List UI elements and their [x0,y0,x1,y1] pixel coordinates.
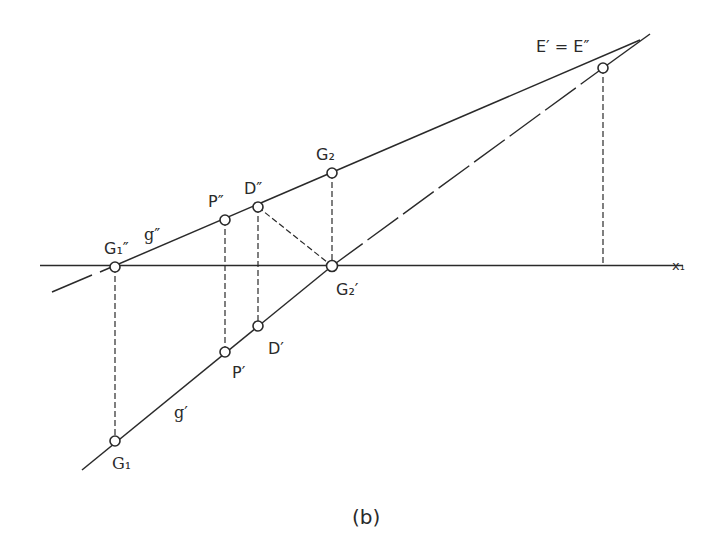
label-D-double-prime: D″ [244,179,262,198]
label-P-prime: P′ [232,363,246,382]
label-G2-prime: G₂′ [336,280,359,299]
label-G1-double-prime: G₁″ [104,239,129,258]
label-P-double-prime: P″ [208,192,224,211]
line-g-double-prime-extension [52,275,92,292]
label-x1-axis: x₁ [672,258,685,273]
descriptive-geometry-diagram: E′ = E″ G₂ D″ P″ g″ G₁″ G₂′ D′ P′ g′ G₁ … [0,0,718,545]
line-g-prime-extension [332,68,603,266]
point-G1-double-prime [110,262,120,272]
label-G1: G₁ [112,454,131,473]
label-g-prime: g′ [174,403,188,422]
point-G2 [327,168,337,178]
point-G2-prime [327,261,338,272]
point-E [598,63,608,73]
point-P-double-prime [220,215,230,225]
point-D-prime [253,321,263,331]
label-E: E′ = E″ [536,37,589,56]
label-g-double-prime: g″ [144,225,160,244]
point-D-double-prime [253,202,263,212]
label-D-prime: D′ [268,339,284,358]
line-g-double-prime [100,40,640,272]
label-G2: G₂ [316,145,335,164]
figure-caption: (b) [352,505,380,529]
point-G1 [110,436,120,446]
point-P-prime [220,347,230,357]
line-g-prime-tail [603,34,650,68]
connector-D-G2prime [258,207,332,266]
